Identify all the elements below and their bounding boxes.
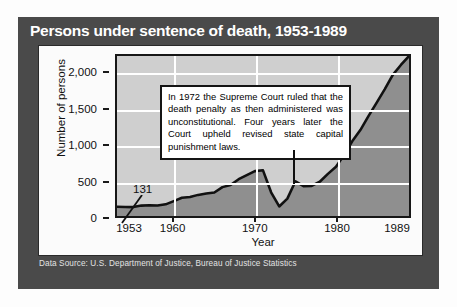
x-tick-label: 1980 — [324, 222, 350, 234]
annotation-leader-line — [293, 150, 295, 184]
x-tick-label: 1970 — [242, 222, 268, 234]
annotation-callout: In 1972 the Supreme Court ruled that the… — [160, 85, 351, 160]
x-tick-mark — [254, 216, 256, 222]
source-note: Data Source: U.S. Department of Justice,… — [39, 259, 297, 268]
y-tick-mark — [103, 144, 109, 146]
y-tick-label: 1,500 — [51, 103, 97, 115]
y-tick-mark — [103, 217, 109, 219]
x-tick-mark — [336, 216, 338, 222]
y-tick-label: 500 — [51, 176, 97, 188]
y-tick-label: 1,000 — [51, 139, 97, 151]
x-axis-label: Year — [115, 236, 411, 248]
chart-panel: Persons under sentence of death, 1953-19… — [18, 17, 439, 289]
y-tick-mark — [103, 181, 109, 183]
figure-root: Persons under sentence of death, 1953-19… — [0, 0, 457, 307]
data-point-label-131: 131 — [133, 183, 152, 195]
chart-card: Number of persons 05001,0001,5002,000 19… — [38, 45, 423, 256]
page-title: Persons under sentence of death, 1953-19… — [30, 22, 430, 40]
gridline-horizontal — [117, 73, 409, 75]
y-tick-mark — [103, 108, 109, 110]
x-tick-label: 1989 — [384, 222, 410, 234]
y-tick-mark — [103, 71, 109, 73]
x-tick-mark — [172, 216, 174, 222]
data-point-leader-line — [121, 195, 143, 224]
gridline-horizontal — [117, 183, 409, 185]
y-axis-ticks: 05001,0001,5002,000 — [51, 46, 97, 255]
y-tick-label: 0 — [51, 212, 97, 224]
x-tick-label: 1960 — [160, 222, 186, 234]
y-tick-label: 2,000 — [51, 66, 97, 78]
